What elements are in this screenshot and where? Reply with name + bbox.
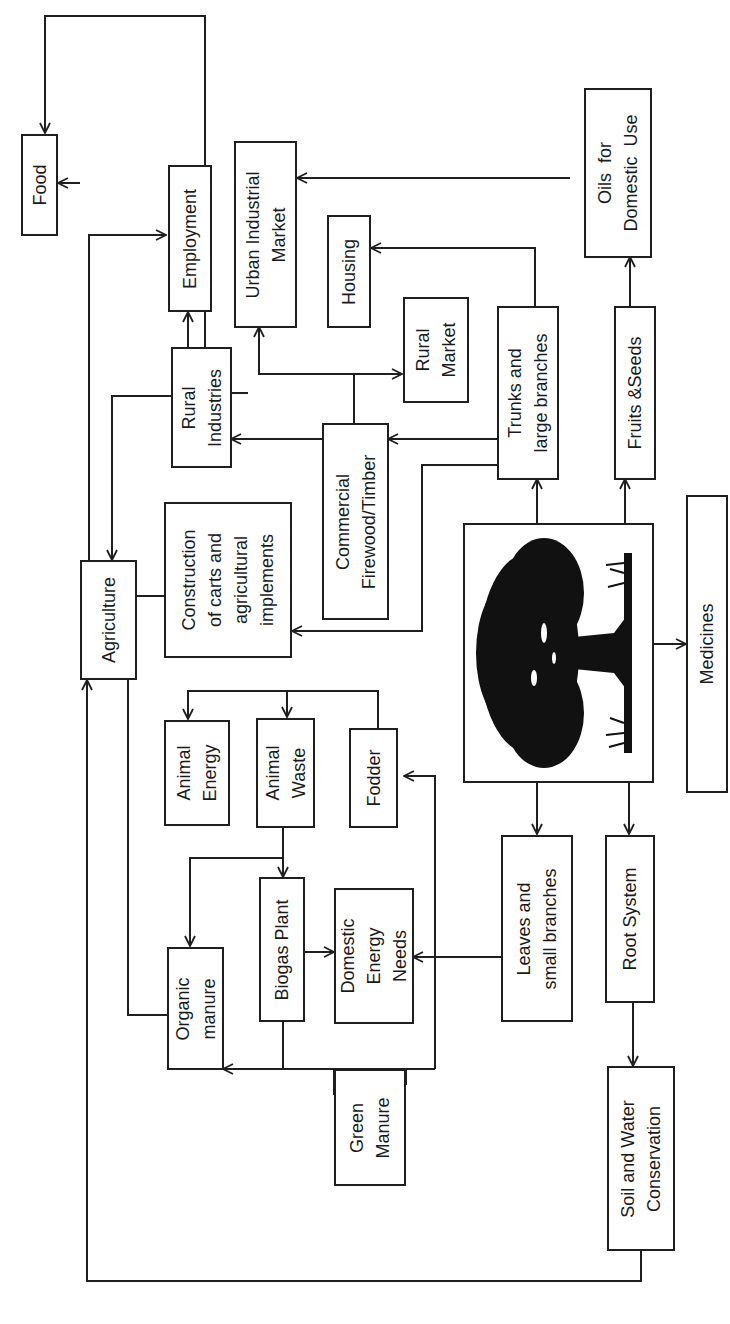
node-label: Biogas Plant — [269, 899, 295, 1000]
node-soil-and-water-conservation: Soil and Water Conservation — [607, 1066, 675, 1251]
node-domestic-energy-needs: Domestic Energy Needs — [334, 888, 414, 1024]
node-label: Green Manure — [344, 1097, 396, 1158]
edge-commercial-to-urban-market — [259, 327, 354, 424]
edge-agriculture-to-employment — [89, 235, 166, 560]
node-construction-of-carts: Construction of carts and agricultural i… — [164, 502, 292, 658]
node-green-manure: Green Manure — [334, 1069, 406, 1186]
node-label: Organic manure — [170, 977, 222, 1040]
node-trunks-and-large-branches: Trunks and large branches — [497, 306, 559, 480]
node-label: Employment — [177, 188, 203, 288]
node-rural-industries: Rural Industries — [171, 347, 232, 468]
edge-fruits-to-food — [45, 16, 248, 393]
node-label: Rural Market — [410, 322, 462, 377]
node-rural-market: Rural Market — [403, 297, 469, 403]
node-label: Fodder — [361, 749, 387, 806]
node-label: Commercial Firewood/Timber — [330, 454, 382, 588]
node-medicines: Medicines — [686, 495, 728, 793]
node-label: Leaves and small branches — [511, 868, 563, 989]
node-label: Medicines — [694, 603, 720, 684]
node-label: Trunks and large branches — [502, 333, 554, 452]
node-food: Food — [21, 134, 58, 236]
node-animal-energy: Animal Energy — [164, 720, 230, 826]
node-animal-waste: Animal Waste — [256, 718, 315, 828]
node-label: Animal Energy — [171, 744, 223, 801]
node-tree — [463, 523, 654, 783]
node-fodder: Fodder — [349, 728, 398, 828]
node-urban-industrial-market: Urban Industrial Market — [234, 141, 297, 328]
node-label: Construction of carts and agricultural i… — [176, 529, 280, 630]
node-leaves-and-small-branches: Leaves and small branches — [501, 835, 573, 1022]
node-label: Root System — [617, 867, 643, 970]
tree-icon — [474, 533, 644, 773]
node-label: Housing — [336, 238, 362, 304]
node-label: Soil and Water Conservation — [615, 1100, 667, 1217]
node-housing: Housing — [327, 215, 371, 328]
node-employment: Employment — [168, 165, 212, 312]
node-label: Domestic Energy Needs — [335, 918, 413, 993]
node-label: Animal Waste — [260, 745, 312, 800]
node-root-system: Root System — [605, 835, 655, 1003]
edge-rural-ind-to-agriculture — [112, 396, 171, 560]
node-label: Agriculture — [96, 577, 122, 663]
node-biogas-plant: Biogas Plant — [259, 877, 305, 1022]
node-fruits-and-seeds: Fruits &Seeds — [614, 306, 656, 480]
node-oils-for-domestic-use: Oils for Domestic Use — [584, 88, 652, 258]
node-commercial-firewood-timber: Commercial Firewood/Timber — [322, 423, 389, 620]
node-label: Oils for Domestic Use — [592, 114, 644, 231]
node-agriculture: Agriculture — [80, 560, 137, 680]
node-label: Rural Industries — [176, 368, 228, 446]
edge-organic-to-agriculture — [128, 680, 167, 1015]
node-label: Fruits &Seeds — [622, 336, 648, 449]
node-label: Food — [27, 164, 53, 205]
node-organic-manure: Organic manure — [167, 947, 224, 1070]
node-label: Urban Industrial Market — [240, 171, 292, 298]
